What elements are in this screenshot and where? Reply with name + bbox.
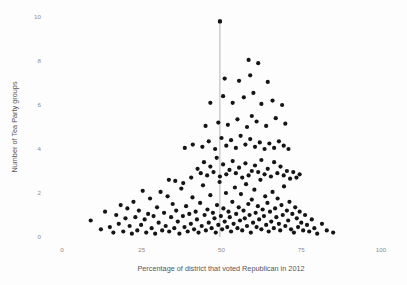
data-point [162, 211, 166, 215]
data-point [211, 211, 215, 215]
data-point [307, 229, 311, 233]
data-point [237, 166, 241, 170]
data-point [189, 176, 193, 180]
data-point [320, 222, 324, 226]
data-point [176, 220, 180, 224]
data-point [263, 194, 267, 198]
data-point [150, 226, 154, 230]
data-point [111, 231, 115, 235]
data-point [248, 73, 252, 77]
data-point [274, 215, 278, 219]
x-axis-title: Percentage of district that voted Republ… [137, 264, 304, 273]
data-point [89, 218, 93, 222]
data-point [224, 144, 228, 148]
data-point [221, 162, 225, 166]
data-point [298, 210, 302, 214]
data-point [208, 101, 212, 105]
data-point [153, 232, 157, 236]
data-point [198, 201, 202, 205]
chart-page: 0255075100 0246810 Percentage of distric… [0, 0, 407, 285]
data-point [202, 213, 206, 217]
data-point [218, 19, 222, 23]
data-point [141, 189, 145, 193]
data-point [119, 203, 123, 207]
data-point [221, 206, 225, 210]
data-point [165, 194, 169, 198]
data-point [272, 160, 276, 164]
data-point [160, 228, 164, 232]
data-point [181, 181, 185, 185]
data-point [211, 170, 215, 174]
x-axis-tick-labels: 0255075100 [60, 246, 386, 253]
data-point [214, 231, 218, 235]
data-point [202, 160, 206, 164]
data-point [146, 212, 150, 216]
data-point [286, 147, 290, 151]
scatter-plot: 0255075100 0246810 Percentage of distric… [0, 0, 407, 285]
data-point [281, 213, 285, 217]
data-point [310, 217, 314, 221]
data-point [203, 124, 207, 128]
data-point [234, 171, 238, 175]
data-point [235, 117, 239, 121]
data-point [167, 229, 171, 233]
data-point [194, 210, 198, 214]
data-point [229, 229, 233, 233]
data-point [252, 188, 256, 192]
data-point [205, 207, 209, 211]
data-point [240, 176, 244, 180]
data-point [225, 225, 229, 229]
data-point [243, 216, 247, 220]
data-point [315, 232, 319, 236]
data-point [250, 198, 254, 202]
data-point [256, 170, 260, 174]
data-points-layer [89, 19, 336, 235]
data-point [269, 220, 273, 224]
y-axis-tick-labels: 0246810 [34, 13, 41, 240]
data-point [164, 224, 168, 228]
data-point [262, 172, 266, 176]
data-point [213, 147, 217, 151]
data-point [312, 226, 316, 230]
data-point [121, 229, 125, 233]
data-point [259, 158, 263, 162]
data-point [262, 147, 266, 151]
data-point [114, 213, 118, 217]
data-point [235, 226, 239, 230]
data-point [232, 222, 236, 226]
data-point [171, 202, 175, 206]
data-point [305, 223, 309, 227]
data-point [278, 228, 282, 232]
data-point [190, 195, 194, 199]
data-point [196, 231, 200, 235]
data-point [282, 184, 286, 188]
data-point [224, 191, 228, 195]
data-point [254, 119, 258, 123]
data-point [276, 196, 280, 200]
data-point [298, 172, 302, 176]
data-point [184, 204, 188, 208]
data-point [155, 205, 159, 209]
data-point [282, 144, 286, 148]
data-point [259, 102, 263, 106]
x-tick-label: 0 [60, 246, 64, 253]
data-point [177, 232, 181, 236]
data-point [272, 226, 276, 230]
data-point [237, 79, 241, 83]
data-point [293, 205, 297, 209]
x-tick-label: 25 [138, 246, 145, 253]
data-point [264, 223, 268, 227]
data-point [199, 171, 203, 175]
data-point [288, 177, 292, 181]
data-point [186, 229, 190, 233]
data-point [238, 218, 242, 222]
data-point [205, 173, 209, 177]
data-point [295, 216, 299, 220]
data-point [294, 176, 298, 180]
data-point [287, 200, 291, 204]
data-point [174, 209, 178, 213]
data-point [215, 156, 219, 160]
y-tick-label: 6 [38, 101, 42, 108]
data-point [286, 218, 290, 222]
data-point [282, 173, 286, 177]
